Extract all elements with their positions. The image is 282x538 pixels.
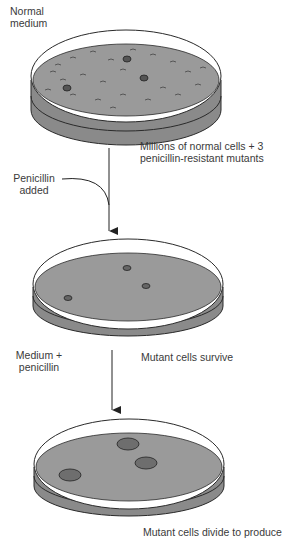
arrow-penicillin-added bbox=[62, 148, 109, 231]
petri-dish-3 bbox=[34, 419, 224, 516]
resistant-mutant-cell bbox=[63, 85, 71, 91]
label-normal-medium: Normal medium bbox=[10, 5, 47, 29]
mutant-colony bbox=[117, 438, 139, 450]
label-medium-penicillin: Medium + penicillin bbox=[10, 349, 68, 373]
label-mutant-survive: Mutant cells survive bbox=[141, 351, 233, 363]
label-penicillin-added: Penicillin added bbox=[10, 172, 58, 196]
petri-dish-2 bbox=[33, 239, 223, 336]
label-mutant-divide: Mutant cells divide to produce bbox=[143, 526, 282, 538]
label-millions-cells: Millions of normal cells + 3 penicillin-… bbox=[140, 140, 264, 164]
mutant-colony bbox=[135, 457, 157, 469]
surviving-mutant-cell bbox=[123, 266, 131, 271]
surviving-mutant-cell bbox=[142, 284, 150, 289]
resistant-mutant-cell bbox=[140, 75, 148, 81]
mutant-colony bbox=[59, 469, 81, 481]
petri-dish-1 bbox=[31, 30, 221, 145]
surviving-mutant-cell bbox=[64, 296, 72, 301]
resistant-mutant-cell bbox=[123, 56, 131, 62]
